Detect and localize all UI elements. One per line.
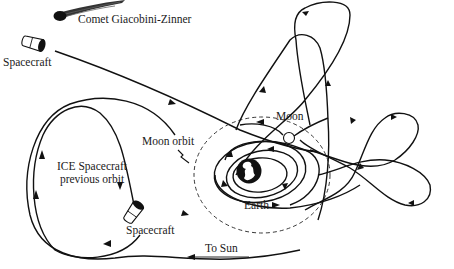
moon-icon	[284, 133, 295, 144]
spacecraft-icon	[122, 198, 146, 225]
trajectory-drawing	[0, 0, 454, 269]
spacecraft-bottom-label: Spacecraft	[126, 224, 175, 237]
ice-previous-orbit-label: ICE Spacecraft previous orbit	[44, 160, 140, 186]
earth-label: Earth	[244, 199, 269, 212]
ice-previous-orbit-line2: previous orbit	[44, 173, 140, 186]
moon-label: Moon	[276, 110, 303, 123]
comet-label: Comet Giacobini-Zinner	[78, 13, 191, 26]
moon-orbit-label: Moon orbit	[142, 135, 194, 148]
ice-trajectory-diagram: Comet Giacobini-Zinner Spacecraft Moon M…	[0, 0, 454, 269]
spacecraft-top-label: Spacecraft	[3, 56, 52, 69]
spacecraft-icon	[21, 34, 47, 53]
earth-icon	[237, 159, 262, 184]
ice-previous-orbit-line1: ICE Spacecraft	[44, 160, 140, 173]
to-sun-label: To Sun	[205, 242, 238, 255]
